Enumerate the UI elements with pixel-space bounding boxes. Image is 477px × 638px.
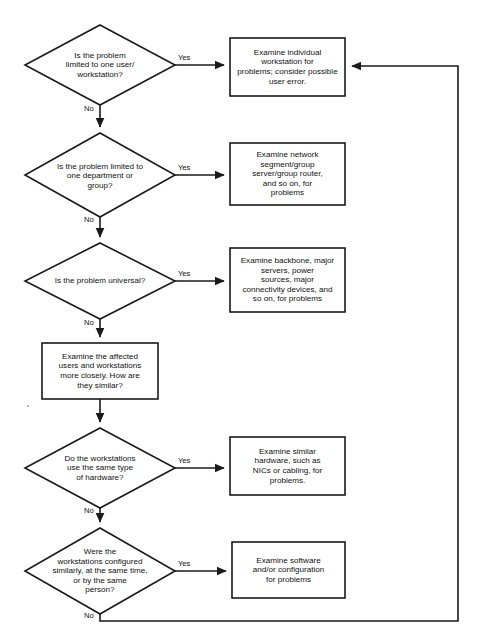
edge-label-d2-no: No: [84, 216, 94, 224]
edge-label-d2-yes: Yes: [178, 164, 190, 172]
process-shape-p5: [230, 437, 345, 495]
flowchart-canvas: [0, 0, 477, 638]
decision-shape-d2: [25, 133, 175, 217]
edge-label-d5-no: No: [84, 612, 94, 620]
process-shape-p3: [230, 248, 345, 312]
decision-shape-d3: [25, 243, 175, 319]
edge-label-d4-no: No: [84, 507, 94, 515]
process-shape-p6: [232, 542, 345, 598]
decision-shape-d5: [25, 528, 175, 614]
process-shape-p4: [42, 343, 158, 399]
edge-label-d3-no: No: [84, 319, 94, 327]
process-shape-p1: [230, 38, 345, 96]
edge-label-d1-yes: Yes: [178, 54, 190, 62]
decision-shape-d1: [25, 25, 175, 105]
flowchart-diagram: Is the problem limited to one user/ work…: [0, 0, 477, 638]
decision-shape-d4: [25, 428, 175, 508]
edge-label-d5-yes: Yes: [178, 560, 190, 568]
edge-label-d3-yes: Yes: [178, 270, 190, 278]
process-shape-p2: [230, 143, 345, 205]
edge-label-d4-yes: Yes: [178, 457, 190, 465]
scan-artifact-speck: [27, 405, 29, 407]
edge-label-d1-no: No: [84, 105, 94, 113]
